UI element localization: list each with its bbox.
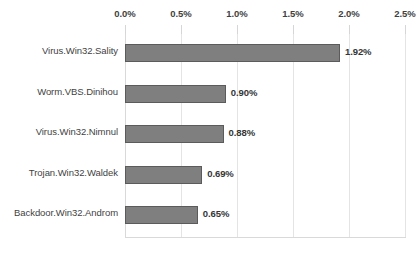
value-label-3: 0.69%: [207, 168, 233, 179]
category-label-1: Worm.VBS.Dinihou: [37, 86, 118, 97]
x-tick-label-0: 0.0%: [114, 8, 135, 19]
bar-chart: 0.0% 0.5% 1.0% 1.5% 2.0% 2.5% Virus.Win3…: [0, 0, 420, 258]
value-label-4: 0.65%: [203, 208, 229, 219]
value-label-2: 0.88%: [229, 127, 255, 138]
bar-2: [125, 125, 224, 143]
bar-row: Backdoor.Win32.Androm0.65%: [0, 196, 420, 236]
x-tick-mark-4: [349, 25, 350, 34]
category-label-3: Trojan.Win32.Waldek: [29, 167, 118, 178]
bar-0: [125, 44, 340, 62]
bar-row: Worm.VBS.Dinihou0.90%: [0, 75, 420, 115]
x-tick-label-4: 2.0%: [338, 8, 359, 19]
x-tick-label-3: 1.5%: [282, 8, 303, 19]
x-tick-mark-3: [293, 25, 294, 34]
x-tick-mark-0: [125, 25, 126, 34]
value-label-0: 1.92%: [345, 46, 371, 57]
bar-row: Trojan.Win32.Waldek0.69%: [0, 156, 420, 196]
bar-3: [125, 166, 202, 184]
x-tick-mark-2: [237, 25, 238, 34]
plot-bottom-axis-line: [125, 237, 406, 238]
bar-row: Virus.Win32.Sality1.92%: [0, 34, 420, 74]
bar-4: [125, 206, 198, 224]
x-tick-label-1: 0.5%: [170, 8, 191, 19]
category-label-2: Virus.Win32.Nimnul: [36, 126, 118, 137]
category-label-4: Backdoor.Win32.Androm: [14, 207, 118, 218]
bar-1: [125, 85, 226, 103]
x-axis-tick-labels: 0.0% 0.5% 1.0% 1.5% 2.0% 2.5%: [0, 8, 420, 24]
x-tick-mark-5: [405, 25, 406, 34]
value-label-1: 0.90%: [231, 87, 257, 98]
x-tick-mark-1: [181, 25, 182, 34]
x-tick-label-2: 1.0%: [226, 8, 247, 19]
category-label-0: Virus.Win32.Sality: [42, 45, 118, 56]
x-tick-label-5: 2.5%: [394, 8, 415, 19]
bar-row: Virus.Win32.Nimnul0.88%: [0, 115, 420, 155]
